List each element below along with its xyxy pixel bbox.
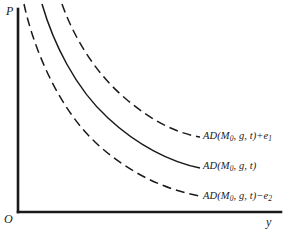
aggregate-demand-figure: P O y AD(M0, g, t)+e1 AD(M0, g, t) AD(M0…	[0, 0, 293, 239]
curve-label-negative-shock: AD(M0, g, t)−e2	[203, 191, 272, 202]
curve-label-subscript-zero: 0	[230, 194, 234, 203]
curve-label-prefix: AD(M	[203, 130, 230, 141]
origin-label: O	[4, 213, 13, 225]
x-axis-label: y	[266, 216, 271, 228]
plot-canvas	[0, 0, 293, 239]
curve-label-subscript-zero: 0	[230, 134, 234, 143]
ad-curve-negative-shock	[24, 4, 200, 196]
curve-label-subscript-zero: 0	[230, 164, 234, 173]
curve-label-mid: , g, t)	[234, 160, 257, 171]
y-axis-label: P	[6, 5, 13, 17]
curve-label-prefix: AD(M	[203, 190, 230, 201]
curve-label-baseline: AD(M0, g, t)	[203, 161, 256, 172]
curve-label-mid: , g, t)+e	[234, 130, 269, 141]
curve-label-prefix: AD(M	[203, 160, 230, 171]
curve-label-subscript-shock: 1	[268, 134, 272, 143]
curve-label-positive-shock: AD(M0, g, t)+e1	[203, 131, 272, 142]
ad-curve-positive-shock	[62, 4, 200, 137]
curve-label-mid: , g, t)−e	[234, 190, 269, 201]
curve-label-subscript-shock: 2	[268, 194, 272, 203]
ad-curve-baseline	[42, 4, 200, 168]
